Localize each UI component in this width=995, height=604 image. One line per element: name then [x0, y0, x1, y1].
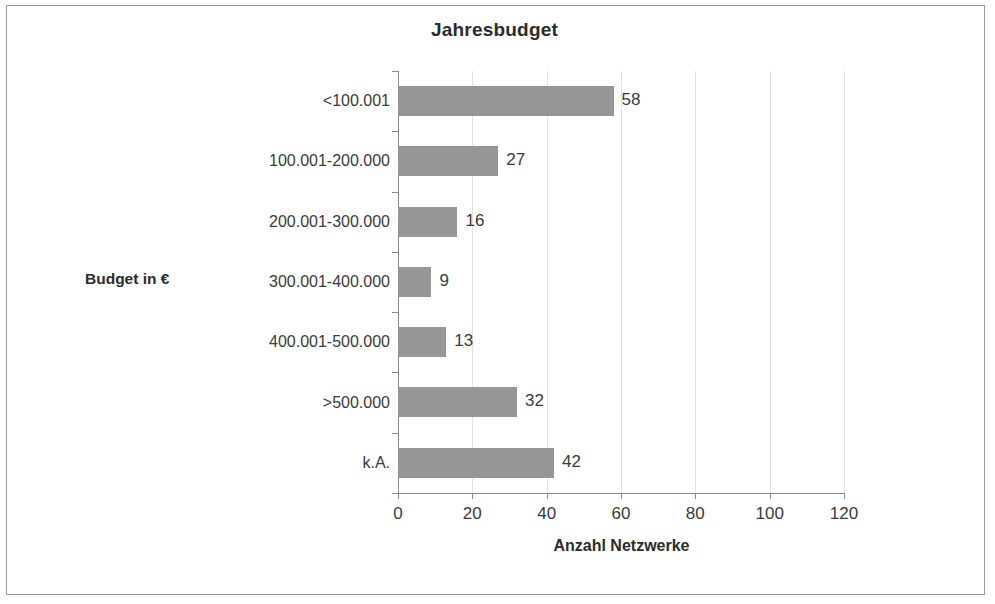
category-axis-labels: <100.001100.001-200.000200.001-300.00030…: [87, 71, 390, 493]
x-axis-tick: [398, 494, 399, 499]
bar-row: 58: [398, 71, 844, 131]
x-axis-tick-label: 40: [517, 504, 577, 524]
x-axis-tick-label: 120: [814, 504, 874, 524]
bar[interactable]: [398, 387, 517, 417]
bar-value-label: 42: [562, 447, 581, 477]
category-label: 200.001-300.000: [90, 212, 390, 232]
x-axis-tick: [695, 494, 696, 499]
x-axis-tick: [770, 494, 771, 499]
y-axis-tick: [392, 433, 398, 434]
y-axis-tick: [392, 131, 398, 132]
chart-frame: Jahresbudget Budget in € <100.001100.001…: [6, 5, 985, 595]
category-label: >500.000: [90, 393, 390, 413]
chart-title: Jahresbudget: [7, 19, 984, 41]
x-axis-tick-label: 100: [740, 504, 800, 524]
x-axis-tick: [547, 494, 548, 499]
bar-value-label: 27: [506, 145, 525, 175]
x-axis-title: Anzahl Netzwerke: [398, 537, 845, 555]
y-axis-tick: [392, 71, 398, 72]
y-axis-tick: [392, 252, 398, 253]
bar-value-label: 16: [465, 206, 484, 236]
bar-row: 9: [398, 252, 844, 312]
category-label: 100.001-200.000: [90, 151, 390, 171]
bar-row: 32: [398, 372, 844, 432]
plot-area: 5827169133242: [398, 71, 844, 493]
bar[interactable]: [398, 327, 446, 357]
bar[interactable]: [398, 448, 554, 478]
x-axis-tick-label: 80: [665, 504, 725, 524]
gridline: [844, 71, 845, 493]
bar-value-label: 58: [622, 85, 641, 115]
bar-row: 27: [398, 131, 844, 191]
chart-title-text: Jahresbudget: [431, 19, 558, 40]
category-label: <100.001: [90, 91, 390, 111]
y-axis-tick: [392, 312, 398, 313]
bar-value-label: 9: [439, 266, 448, 296]
y-axis-tick: [392, 192, 398, 193]
y-axis-tick: [392, 372, 398, 373]
category-label: 300.001-400.000: [90, 272, 390, 292]
x-axis-tick: [844, 494, 845, 499]
x-axis-tick-label: 20: [442, 504, 502, 524]
category-label: k.A.: [90, 453, 390, 473]
bar[interactable]: [398, 146, 498, 176]
x-axis-tick-label: 60: [591, 504, 651, 524]
x-axis-tick: [621, 494, 622, 499]
x-axis-tick-label: 0: [368, 504, 428, 524]
bar[interactable]: [398, 207, 457, 237]
bar-row: 13: [398, 312, 844, 372]
y-axis-tick: [392, 493, 398, 494]
bar-row: 42: [398, 433, 844, 493]
bar[interactable]: [398, 86, 614, 116]
bar-value-label: 32: [525, 386, 544, 416]
bar[interactable]: [398, 267, 431, 297]
bar-row: 16: [398, 192, 844, 252]
category-label: 400.001-500.000: [90, 332, 390, 352]
x-axis-tick: [472, 494, 473, 499]
bar-value-label: 13: [454, 326, 473, 356]
